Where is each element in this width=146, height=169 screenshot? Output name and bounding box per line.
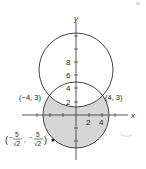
svg-text:−: − <box>29 134 33 141</box>
y-tick-label-2: 2 <box>66 98 71 107</box>
x-tick-label-2: 2 <box>86 118 91 127</box>
point-dot <box>51 138 54 141</box>
x-tick-label-4: 4 <box>99 118 104 127</box>
svg-text:): ) <box>44 135 47 145</box>
decorative-curve <box>120 134 132 136</box>
point-label-4-3: (4, 3) <box>105 93 123 102</box>
svg-text:5: 5 <box>15 131 19 138</box>
y-axis-label: y <box>73 14 79 23</box>
y-tick-label-8: 8 <box>66 58 71 67</box>
circles-diagram: y x 8 6 4 2 2 4 (−4, 3) (4, 3) ( − 5 √2 … <box>0 0 146 169</box>
svg-text:√2: √2 <box>34 140 42 147</box>
svg-text:,: , <box>24 136 26 143</box>
point-label-fraction: ( − 5 √2 , − 5 √2 ) <box>5 131 47 147</box>
svg-text:(: ( <box>5 135 8 145</box>
y-tick-label-6: 6 <box>66 71 71 80</box>
x-axis-label: x <box>130 111 136 120</box>
point-label-neg4-3: (−4, 3) <box>19 93 41 102</box>
svg-text:5: 5 <box>36 131 40 138</box>
svg-text:√2: √2 <box>13 140 21 147</box>
y-tick-label-4: 4 <box>66 84 71 93</box>
decorative-mark <box>136 2 140 5</box>
